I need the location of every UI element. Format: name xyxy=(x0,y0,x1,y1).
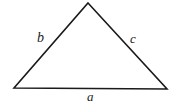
triangle-figure: b c a xyxy=(0,0,177,104)
side-label-b: b xyxy=(37,31,44,45)
side-label-c: c xyxy=(130,32,136,45)
triangle-outline-polygon xyxy=(14,3,167,89)
side-label-a: a xyxy=(87,90,94,103)
